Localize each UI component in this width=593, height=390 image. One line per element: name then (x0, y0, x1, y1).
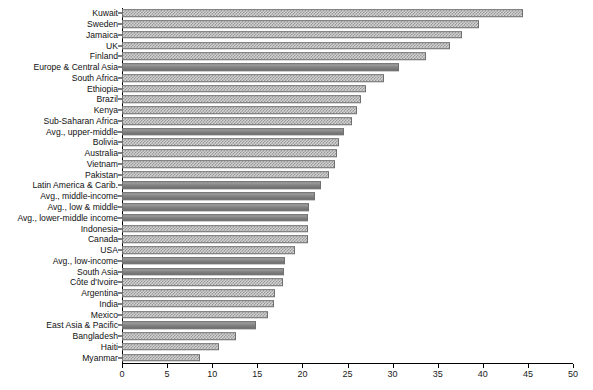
category-label: Canada (88, 234, 118, 244)
bar (122, 117, 352, 125)
bar (122, 192, 315, 200)
bar-row: Canada (0, 234, 593, 245)
bar (122, 214, 308, 222)
category-label: Vietnam (87, 159, 118, 169)
category-label: East Asia & Pacific (46, 320, 118, 330)
bar (122, 182, 321, 190)
category-label: Argentina (81, 288, 118, 298)
bar (122, 149, 337, 157)
bar-row: South Africa (0, 73, 593, 84)
category-label: Bolivia (93, 137, 118, 147)
category-label: South Africa (72, 73, 118, 83)
x-tick-label: 0 (119, 369, 124, 380)
category-label: Kuwait (92, 8, 118, 18)
category-label: Pakistan (85, 170, 118, 180)
category-label: Sweden (87, 19, 118, 29)
category-label: Europe & Central Asia (33, 62, 118, 72)
category-label: Bangladesh (73, 331, 118, 341)
bar-row: Brazil (0, 94, 593, 105)
x-tick-mark (573, 364, 574, 368)
category-label: Avg., low-income (53, 256, 118, 266)
bar-row: Bolivia (0, 137, 593, 148)
x-tick-label: 15 (252, 369, 262, 380)
bar-row: Vietnam (0, 159, 593, 170)
bar-row: Argentina (0, 288, 593, 299)
x-tick-mark (257, 364, 258, 368)
category-label: Sub-Saharan Africa (43, 116, 118, 126)
x-tick-label: 30 (388, 369, 398, 380)
bar-row: Avg., upper-middle (0, 126, 593, 137)
bar-row: Sub-Saharan Africa (0, 116, 593, 127)
category-label: Avg., low & middle (47, 202, 118, 212)
category-label: South Asia (77, 267, 118, 277)
bar (122, 20, 479, 28)
bar (122, 63, 399, 71)
bar-row: USA (0, 245, 593, 256)
bar-row: South Asia (0, 266, 593, 277)
bar-row: Ethiopia (0, 83, 593, 94)
bar-row: Latin America & Carib. (0, 180, 593, 191)
bar (122, 343, 219, 351)
bar-row: Avg., low & middle (0, 202, 593, 213)
x-tick-mark (528, 364, 529, 368)
bar-row: Avg., middle-income (0, 191, 593, 202)
bar-rows-container: KuwaitSwedenJamaicaUKFinlandEurope & Cen… (0, 8, 593, 363)
bar-row: UK (0, 40, 593, 51)
bar-row: Sweden (0, 19, 593, 30)
bar-row: Avg., lower-middle income (0, 212, 593, 223)
bar-row: East Asia & Pacific (0, 320, 593, 331)
bar (122, 332, 236, 340)
bar-row: Jamaica (0, 30, 593, 41)
bar-row: Pakistan (0, 169, 593, 180)
bar (122, 85, 366, 93)
x-tick-label: 20 (297, 369, 307, 380)
bar (122, 74, 384, 82)
x-tick-mark (122, 364, 123, 368)
bar-row: Mexico (0, 309, 593, 320)
bar-row: Côte d'Ivoire (0, 277, 593, 288)
bar-row: Haiti (0, 341, 593, 352)
bar-row: Finland (0, 51, 593, 62)
bar-row: Kuwait (0, 8, 593, 19)
bar (122, 96, 361, 104)
bar (122, 257, 285, 265)
category-label: UK (106, 41, 118, 51)
x-tick-mark (167, 364, 168, 368)
x-tick-label: 50 (568, 369, 578, 380)
bar (122, 42, 450, 50)
bar (122, 225, 308, 233)
bar (122, 246, 295, 254)
x-tick-label: 45 (523, 369, 533, 380)
category-label: Côte d'Ivoire (70, 277, 118, 287)
x-tick-label: 35 (433, 369, 443, 380)
bar-row: Indonesia (0, 223, 593, 234)
bar-row: India (0, 298, 593, 309)
bar (122, 268, 284, 276)
category-label: Haiti (101, 342, 118, 352)
category-label: Avg., middle-income (40, 191, 118, 201)
x-tick-mark (393, 364, 394, 368)
category-label: Mexico (91, 310, 118, 320)
x-tick-mark (438, 364, 439, 368)
bar (122, 139, 339, 147)
category-label: Indonesia (81, 224, 118, 234)
bar (122, 300, 274, 308)
x-tick-label: 25 (342, 369, 352, 380)
bar (122, 322, 256, 330)
x-tick-mark (212, 364, 213, 368)
bar (122, 160, 335, 168)
category-label: Brazil (97, 94, 119, 104)
category-label: Ethiopia (87, 84, 118, 94)
bar (122, 289, 275, 297)
bar-row: Kenya (0, 105, 593, 116)
category-label: Avg., upper-middle (46, 127, 118, 137)
category-label: Jamaica (86, 30, 118, 40)
bar (122, 354, 200, 362)
x-tick-mark (348, 364, 349, 368)
bar-row: Australia (0, 148, 593, 159)
x-tick-label: 40 (478, 369, 488, 380)
category-label: USA (100, 245, 118, 255)
bar-row: Europe & Central Asia (0, 62, 593, 73)
category-label: Latin America & Carib. (33, 180, 119, 190)
bar (122, 31, 462, 39)
